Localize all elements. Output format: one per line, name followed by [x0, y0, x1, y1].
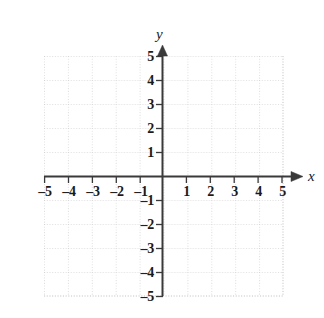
x-tick-label-4: 4	[249, 185, 268, 199]
y-tick-label--4: –4	[126, 266, 154, 280]
y-tick-label-1: 1	[135, 146, 154, 160]
x-axis-label: x	[308, 169, 315, 184]
x-tick-label-2: 2	[201, 185, 220, 199]
y-tick-label-3: 3	[135, 98, 154, 112]
x-tick-label-3: 3	[225, 185, 244, 199]
x-tick-label-5: 5	[273, 185, 292, 199]
y-tick-label--1: –1	[126, 194, 154, 208]
y-tick-label-2: 2	[135, 122, 154, 136]
y-tick-label--2: –2	[126, 218, 154, 232]
y-tick-label--3: –3	[126, 242, 154, 256]
y-tick-label-5: 5	[135, 50, 154, 64]
y-tick-label-4: 4	[135, 74, 154, 88]
coordinate-plane-svg	[0, 0, 324, 318]
y-tick-label--5: –5	[126, 290, 154, 304]
x-tick-label-1: 1	[177, 185, 196, 199]
coordinate-plane-figure: –5 –4 –3 –2 –1 1 2 3 4 5 5 4 3 2 1 –1 –2…	[0, 0, 324, 318]
y-axis-label: y	[156, 27, 163, 42]
